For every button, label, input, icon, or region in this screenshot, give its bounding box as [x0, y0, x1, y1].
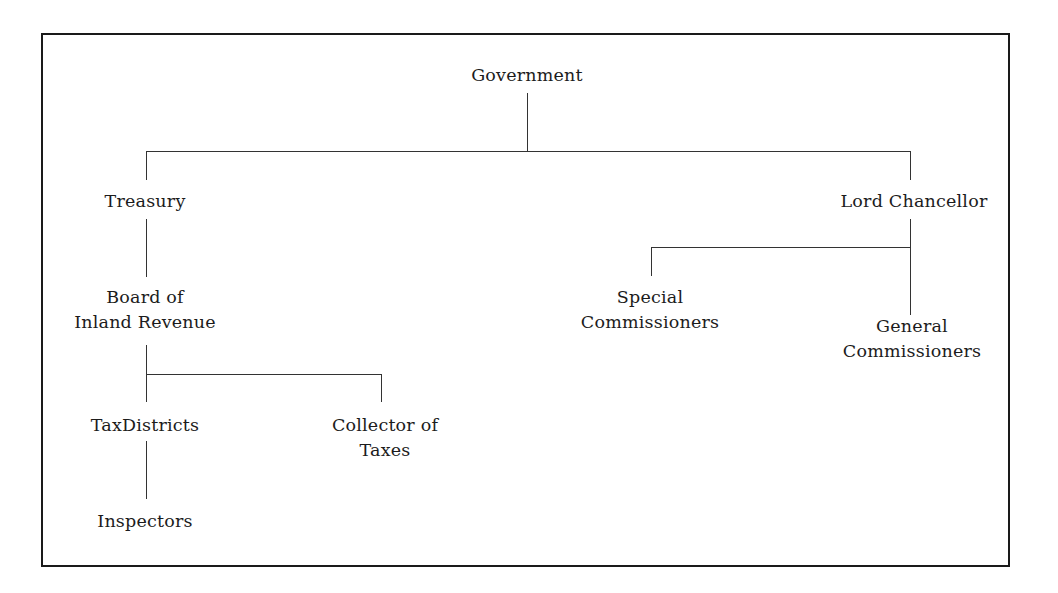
connector-treasury-to-board: [146, 219, 147, 277]
node-label: Lord Chancellor: [841, 189, 988, 214]
node-treasury: Treasury: [105, 189, 186, 214]
node-label-line-1: Special: [581, 285, 719, 310]
node-lord-chancellor: Lord Chancellor: [841, 189, 988, 214]
node-inspectors: Inspectors: [97, 509, 192, 534]
node-label-line-1: General: [843, 314, 981, 339]
connector-to-treasury: [146, 151, 147, 180]
node-label: Treasury: [105, 189, 186, 214]
connector-districts-to-inspectors: [146, 441, 147, 499]
node-label-line-2: Taxes: [332, 438, 438, 463]
connector-board-bar: [146, 374, 381, 375]
connector-lord-chancellor-down: [910, 219, 911, 315]
node-collector-of-taxes: Collector of Taxes: [332, 413, 438, 463]
node-label-line-1: Board of: [74, 285, 216, 310]
connector-to-collector: [381, 374, 382, 402]
node-label-line-2: Commissioners: [581, 310, 719, 335]
connector-top-bar: [146, 151, 911, 152]
node-government: Government: [471, 63, 583, 88]
connector-commissioners-bar: [651, 247, 911, 248]
node-tax-districts: TaxDistricts: [91, 413, 199, 438]
node-board-of-inland-revenue: Board of Inland Revenue: [74, 285, 216, 335]
node-label: Government: [471, 63, 583, 88]
connector-government-down: [527, 93, 528, 151]
node-special-commissioners: Special Commissioners: [581, 285, 719, 335]
node-label-line-1: Collector of: [332, 413, 438, 438]
node-label: Inspectors: [97, 509, 192, 534]
connector-to-lord-chancellor: [910, 151, 911, 180]
connector-to-special-commissioners: [651, 247, 652, 276]
node-label: TaxDistricts: [91, 413, 199, 438]
node-label-line-2: Commissioners: [843, 339, 981, 364]
node-label-line-2: Inland Revenue: [74, 310, 216, 335]
node-general-commissioners: General Commissioners: [843, 314, 981, 364]
